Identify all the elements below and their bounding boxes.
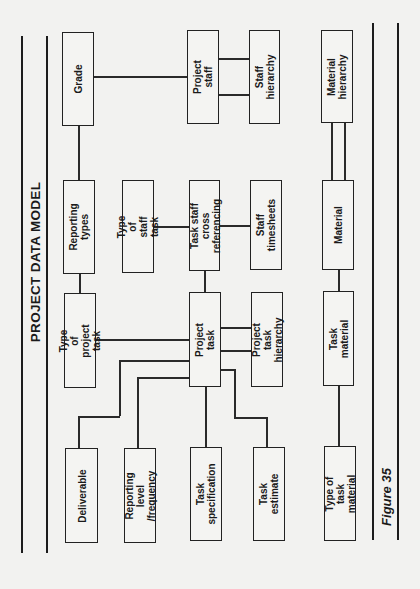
entity-label: Task specification	[195, 463, 217, 524]
entity-label: Project staff	[192, 60, 214, 94]
entity-task-estimate: Task estimate	[253, 447, 285, 541]
entity-label: Staff hierarchy	[254, 54, 276, 99]
left-rule-inner	[46, 36, 48, 553]
entity-project-task: Project task	[189, 292, 221, 387]
connector-xref-timesheets	[220, 225, 250, 227]
connector-project-task-specification	[205, 387, 207, 447]
entity-type-of-task-material: Type of task material	[324, 446, 356, 541]
entity-material-hierarchy: Material hierarchy	[321, 30, 353, 123]
connector-project-task-estimate-c	[234, 417, 267, 419]
entity-label: Project task hierarchy	[251, 317, 284, 362]
entity-label: Task estimate	[258, 474, 280, 515]
entity-label: Task staff cross referencing	[188, 198, 221, 252]
entity-label: Deliverable	[76, 469, 87, 522]
entity-label: Reporting level /frequency	[124, 470, 157, 521]
connector-project-task-deliverable-c	[78, 416, 120, 418]
entity-project-staff: Project staff	[187, 30, 219, 124]
connector-project-task-deliverable-a	[119, 360, 189, 362]
connector-project-task-reporting-level-a	[137, 377, 189, 379]
entity-type-of-staff-task: Type of staff task	[122, 180, 154, 273]
entity-grade: Grade	[62, 32, 94, 126]
connector-material-hierarchy-1	[331, 123, 333, 180]
entity-label: Grade	[73, 65, 84, 94]
entity-reporting-level-frequency: Reporting level /frequency	[124, 448, 156, 543]
connector-xref-project-task	[204, 271, 206, 292]
entity-project-task-hierarchy: Project task hierarchy	[251, 292, 283, 387]
connector-task-material-type	[338, 386, 340, 446]
connector-grade-reporting-types	[78, 126, 80, 180]
entity-staff-timesheets: Staff timesheets	[250, 180, 282, 270]
connector-project-staff-hierarchy-1	[219, 58, 249, 60]
connector-project-task-hierarchy-2	[221, 350, 251, 352]
connector-reporting-types-type-of-project-task	[79, 274, 81, 293]
entity-label: Type of task material	[324, 474, 357, 512]
entity-task-specification: Task specification	[190, 447, 222, 541]
connector-project-task-hierarchy-1	[221, 327, 251, 329]
connector-project-staff-hierarchy-2	[219, 94, 249, 96]
connector-grade-project-staff	[94, 76, 187, 78]
left-rule-outer	[21, 36, 23, 553]
entity-staff-hierarchy: Staff hierarchy	[249, 30, 280, 124]
entity-material: Material	[322, 180, 354, 270]
connector-project-task-deliverable-d	[78, 416, 80, 448]
connector-project-task-estimate-b	[234, 369, 236, 417]
entity-label: Material hierarchy	[326, 54, 348, 99]
connector-project-task-estimate-d	[266, 417, 268, 447]
entity-label: Staff timesheets	[255, 199, 277, 251]
right-rule-inner	[372, 23, 374, 540]
right-rule-outer	[397, 23, 399, 540]
connector-type-project-task-project-task	[96, 339, 189, 341]
connector-project-task-estimate-a	[221, 369, 235, 371]
entity-task-staff-cross-referencing: Task staff cross referencing	[189, 180, 220, 271]
connector-project-task-deliverable-b	[119, 360, 121, 416]
entity-label: Project task	[194, 323, 216, 357]
entity-label: Material	[333, 206, 344, 244]
entity-label: Type of project task	[58, 324, 102, 357]
figure-caption: Figure 35	[379, 468, 394, 526]
entity-label: Task material	[328, 319, 350, 357]
entity-type-of-project-task: Type of project task	[64, 293, 96, 388]
entity-reporting-types: Reporting types	[63, 180, 95, 274]
entity-label: Reporting types	[68, 203, 90, 250]
entity-label: Type of staff task	[116, 215, 160, 238]
entity-deliverable: Deliverable	[65, 448, 98, 543]
connector-material-hierarchy-2	[344, 123, 346, 180]
connector-material-task-material	[338, 270, 340, 291]
connector-project-task-reporting-level-b	[137, 377, 139, 448]
entity-task-material: Task material	[323, 291, 354, 386]
diagram-title: PROJECT DATA MODEL	[28, 182, 43, 342]
